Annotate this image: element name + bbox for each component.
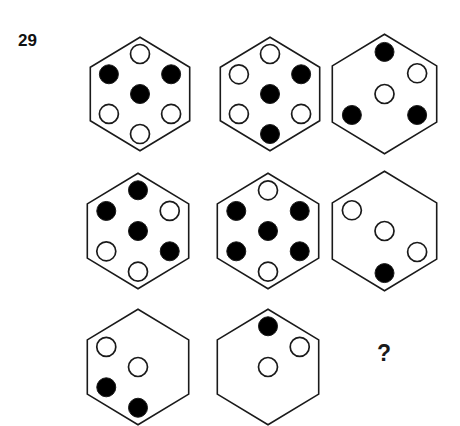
hexagon-row1-col3 <box>331 33 438 155</box>
dot-bottom-right-filled <box>160 242 179 261</box>
dot-top-filled <box>129 181 148 200</box>
dot-center-filled <box>261 85 280 104</box>
dot-top-right-empty <box>290 337 309 356</box>
dot-bottom-right-empty <box>408 242 427 261</box>
dot-center-filled <box>259 222 278 241</box>
dot-bottom-empty <box>129 262 148 281</box>
hexagon-row3-col1 <box>86 308 190 426</box>
dot-center-empty <box>375 222 394 241</box>
dot-bottom-empty <box>131 125 150 144</box>
dot-center-empty <box>259 358 278 377</box>
dot-bottom-right-filled <box>408 105 427 124</box>
dot-top-filled <box>375 42 394 61</box>
hexagon-row1-col1 <box>89 36 191 152</box>
dot-top-empty <box>261 44 280 63</box>
dot-bottom-empty <box>259 262 278 281</box>
dot-bottom-left-filled <box>227 242 246 261</box>
dot-top-left-filled <box>97 201 116 220</box>
dot-center-empty <box>375 85 394 104</box>
answer-placeholder-question-mark: ? <box>377 340 391 367</box>
dot-center-empty <box>129 358 148 377</box>
dot-top-left-empty <box>229 65 248 84</box>
hexagon-row2-col1 <box>86 172 190 290</box>
dot-bottom-right-empty <box>292 104 311 123</box>
dot-bottom-filled <box>129 398 148 417</box>
dot-center-filled <box>131 85 150 104</box>
dot-top-right-filled <box>292 65 311 84</box>
dot-center-filled <box>129 222 148 241</box>
dot-bottom-left-empty <box>229 104 248 123</box>
dot-top-left-empty <box>342 201 361 220</box>
dot-top-empty <box>131 44 150 63</box>
dot-top-left-empty <box>97 337 116 356</box>
dot-bottom-right-empty <box>162 104 181 123</box>
hexagon-row2-col2 <box>216 172 320 290</box>
dot-bottom-filled <box>261 125 280 144</box>
hexagon-row2-col3 <box>331 170 438 292</box>
dot-top-right-filled <box>290 201 309 220</box>
hexagon-row3-col2 <box>216 308 320 426</box>
dot-top-right-empty <box>160 201 179 220</box>
dot-bottom-right-filled <box>290 242 309 261</box>
dot-bottom-left-empty <box>97 242 116 261</box>
dot-top-right-filled <box>162 65 181 84</box>
dot-top-empty <box>259 181 278 200</box>
hexagon-row1-col2 <box>219 36 321 152</box>
dot-bottom-left-filled <box>342 105 361 124</box>
puzzle-number-label: 29 <box>18 31 37 51</box>
dot-bottom-left-filled <box>97 378 116 397</box>
dot-bottom-left-empty <box>99 104 118 123</box>
dot-top-left-filled <box>227 201 246 220</box>
dot-top-right-empty <box>408 64 427 83</box>
dot-bottom-filled <box>375 264 394 283</box>
dot-top-filled <box>259 317 278 336</box>
dot-top-left-filled <box>99 65 118 84</box>
